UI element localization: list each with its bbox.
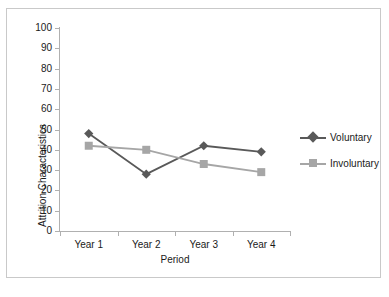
legend-item-voluntary[interactable]: Voluntary xyxy=(300,130,384,156)
chart-figure: Attrition Characteristics 10090807060504… xyxy=(0,0,389,297)
chart-legend: VoluntaryInvoluntary xyxy=(300,130,384,182)
data-point-marker xyxy=(257,168,265,176)
data-point-marker xyxy=(199,141,208,150)
series-voluntary xyxy=(84,129,266,179)
diamond-marker-icon xyxy=(307,131,318,142)
square-marker-icon xyxy=(309,159,317,167)
legend-item-involuntary[interactable]: Involuntary xyxy=(300,156,384,182)
data-point-marker xyxy=(257,147,266,156)
legend-label: Involuntary xyxy=(330,158,379,169)
legend-label: Voluntary xyxy=(330,132,372,143)
data-point-marker xyxy=(200,160,208,168)
data-point-marker xyxy=(142,146,150,154)
data-point-marker xyxy=(85,142,93,150)
series-involuntary xyxy=(85,142,266,176)
